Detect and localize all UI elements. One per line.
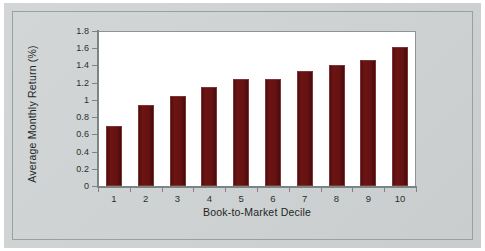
x-axis-title: Book-to-Market Decile: [98, 206, 416, 218]
x-tick-label: 10: [395, 193, 406, 204]
y-tick-label: 1: [84, 95, 89, 105]
chart-figure: 00.20.40.60.811.21.41.61.8 12345678910 B…: [0, 0, 485, 251]
bar: [329, 65, 345, 186]
x-tick-mark: [98, 187, 99, 192]
bar: [201, 87, 217, 186]
y-tick-label: 1.8: [76, 26, 89, 36]
y-tick-label: 0.2: [76, 164, 89, 174]
x-tick-mark: [162, 187, 163, 192]
x-tick-mark: [384, 187, 385, 192]
y-tick-label: 0.8: [76, 112, 89, 122]
x-tick-label: 6: [270, 193, 275, 204]
x-tick-mark: [416, 187, 417, 192]
bar: [170, 96, 186, 186]
bar: [233, 79, 249, 186]
x-tick-label: 3: [175, 193, 180, 204]
x-tick-mark: [130, 187, 131, 192]
x-tick-mark: [193, 187, 194, 192]
x-tick-mark: [289, 187, 290, 192]
bar-series: [98, 31, 416, 186]
bar: [392, 47, 408, 187]
x-tick-label: 7: [302, 193, 307, 204]
x-tick-label: 4: [207, 193, 212, 204]
x-tick-mark: [352, 187, 353, 192]
bar: [360, 60, 376, 186]
x-tick-mark: [257, 187, 258, 192]
bar: [106, 126, 122, 186]
x-tick-label: 9: [366, 193, 371, 204]
bar: [138, 105, 154, 186]
x-tick-mark: [321, 187, 322, 192]
y-tick-label: 0: [84, 181, 89, 191]
x-tick-mark: [225, 187, 226, 192]
y-axis-title: Average Monthly Return (%): [26, 34, 38, 194]
x-tick-label: 2: [143, 193, 148, 204]
x-tick-label: 1: [111, 193, 116, 204]
y-tick-label: 1.4: [76, 60, 89, 70]
y-tick-label: 1.6: [76, 43, 89, 53]
x-tick-label: 8: [334, 193, 339, 204]
y-tick-label: 0.4: [76, 147, 89, 157]
y-tick-label: 0.6: [76, 129, 89, 139]
x-tick-label: 5: [238, 193, 243, 204]
bar: [265, 79, 281, 186]
y-tick-label: 1.2: [76, 78, 89, 88]
bar: [297, 71, 313, 186]
